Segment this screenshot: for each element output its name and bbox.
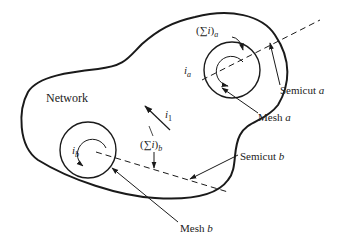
network-label: Network — [46, 91, 88, 105]
sum-a-label: (∑i)a — [196, 24, 218, 39]
mesh-a-outer-circle — [204, 42, 260, 98]
i1-label: i1 — [165, 108, 172, 123]
mesh-b-outer-circle — [60, 122, 116, 178]
semicut-a-pointer — [270, 43, 280, 85]
network-diagram: Network ia ib (∑i)a (∑i)b i1 Semicut a M… — [0, 0, 342, 242]
mesh-b-current-label: ib — [72, 144, 79, 159]
semicut-a-label: Semicut a — [280, 84, 325, 96]
sum-b-label: (∑i)b — [140, 138, 162, 153]
mesh-a-current-label: ia — [184, 64, 191, 79]
semicut-b-line — [96, 152, 228, 192]
mesh-b-current-arrow — [77, 139, 106, 166]
mesh-a-label: Mesh a — [258, 111, 291, 123]
semicut-a-line — [202, 20, 320, 80]
mesh-b-pointer — [112, 168, 178, 222]
semicut-b-label: Semicut b — [240, 150, 285, 162]
mesh-a-pointer — [222, 88, 258, 113]
mesh-b-label: Mesh b — [180, 222, 213, 234]
sum-b-leader — [149, 126, 153, 136]
